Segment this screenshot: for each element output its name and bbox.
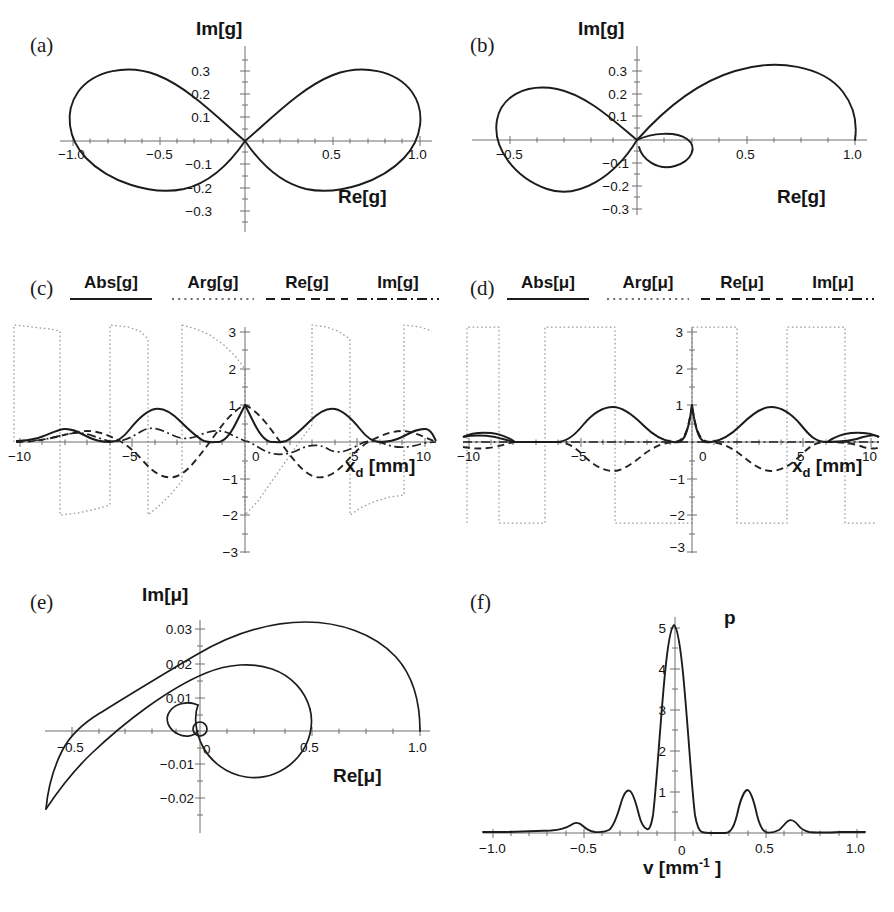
panel-c-x-axis-title: xd [mm] <box>345 455 415 480</box>
panel-d-legend-arg: Arg[μ] <box>605 273 691 296</box>
panel-f-x-axis-tail: ] <box>710 857 722 878</box>
panel-d-legend-im: Im[μ] <box>790 273 876 296</box>
panel-f-curve-spectrum <box>483 625 865 833</box>
panel-e: (e) Im[μ] Re[μ] <box>0 565 447 912</box>
panel-d-xtick-4: 10 <box>862 449 877 464</box>
panel-d-legend-re-label: Re[μ] <box>699 273 785 293</box>
panel-f: (f) p v [mm-1 ] <box>447 565 894 912</box>
panel-d-ytick-4: −2 <box>670 508 685 523</box>
panel-e-label: (e) <box>30 590 53 615</box>
panel-d-ytick-1: 2 <box>675 362 683 377</box>
panel-b-ytick-2: 0.1 <box>608 109 627 124</box>
panel-b-xtick-2: 1.0 <box>843 147 862 162</box>
panel-b-ytick-5: −0.3 <box>602 202 629 217</box>
panel-a-xtick-1: −0.5 <box>146 147 173 162</box>
panel-f-xtick-0: −1.0 <box>479 841 506 856</box>
panel-d-x-axis-title: xd [mm] <box>792 455 862 480</box>
panel-a: (a) Im[g] Re[g] <box>0 0 447 260</box>
panel-b-ytick-4: −0.2 <box>602 179 629 194</box>
panel-c-xtick-1: −5 <box>122 449 137 464</box>
panel-f-x-axis-unit: [mm <box>654 857 699 878</box>
panel-d-ytick-0: 3 <box>675 325 683 340</box>
panel-f-label: (f) <box>470 590 491 615</box>
panel-d: (d) Abs[μ] Arg[μ] Re[μ] Im[μ] x <box>447 265 894 565</box>
panel-d-curve-abs <box>463 405 879 442</box>
panel-d-legend-arg-label: Arg[μ] <box>605 273 691 293</box>
panel-e-xtick-2: 0.5 <box>300 740 319 755</box>
panel-d-legend-re: Re[μ] <box>699 273 785 296</box>
panel-c-label: (c) <box>30 276 53 301</box>
panel-f-x-axis-sup: -1 <box>699 856 710 870</box>
panel-e-ytick-0: 0.03 <box>166 622 192 637</box>
panel-d-ytick-3: −1 <box>670 472 685 487</box>
panel-c-legend-im: Im[g] <box>355 273 441 296</box>
panel-f-y-axis-title: p <box>724 607 736 629</box>
panel-f-xtick-1: −0.5 <box>570 841 597 856</box>
panel-e-x-axis-title: Re[μ] <box>333 765 382 787</box>
figure-multipanel: (a) Im[g] Re[g] <box>0 0 894 912</box>
panel-a-ytick-5: −0.3 <box>185 204 212 219</box>
panel-c-ytick-1: 2 <box>228 362 236 377</box>
panel-a-ytick-1: 0.2 <box>191 87 210 102</box>
panel-a-label: (a) <box>30 33 53 58</box>
panel-e-ytick-4: −0.02 <box>160 791 194 806</box>
panel-a-xtick-0: −1.0 <box>58 147 85 162</box>
panel-c-legend-re: Re[g] <box>264 273 350 296</box>
panel-a-xtick-2: 0.5 <box>322 147 341 162</box>
panel-c-legend-re-label: Re[g] <box>264 273 350 293</box>
panel-e-y-axis-title: Im[μ] <box>142 584 188 606</box>
panel-c-legend-abs: Abs[g] <box>68 273 154 296</box>
panel-d-plot: −10 −5 0 5 10 3 2 1 −1 −2 −3 <box>447 265 894 565</box>
panel-c-legend-abs-label: Abs[g] <box>68 273 154 293</box>
panel-c-legend-im-label: Im[g] <box>355 273 441 293</box>
panel-c-x-axis-base: x <box>345 455 356 476</box>
panel-e-plot: −0.5 0 0.5 1.0 0.03 0.02 0.01 −0.01 −0.0… <box>0 565 447 912</box>
panel-f-x-axis-title: v [mm-1 ] <box>643 856 721 879</box>
panel-c-ytick-0: 3 <box>228 325 236 340</box>
panel-e-xtick-3: 1.0 <box>408 740 427 755</box>
panel-b-x-axis-title: Re[g] <box>777 186 826 208</box>
panel-c-plot: −10 −5 0 5 10 3 2 1 −1 −2 −3 <box>0 265 447 565</box>
panel-c-x-axis-unit: [mm] <box>364 455 416 476</box>
panel-e-ytick-3: −0.01 <box>160 757 194 772</box>
panel-c-ytick-3: −1 <box>223 472 238 487</box>
panel-d-legend-im-label: Im[μ] <box>790 273 876 293</box>
panel-c-xtick-0: −10 <box>8 449 31 464</box>
panel-a-y-axis-title: Im[g] <box>196 18 242 40</box>
panel-b-y-axis-title: Im[g] <box>578 18 624 40</box>
panel-b: (b) Im[g] Re[g] <box>447 0 894 260</box>
panel-c-x-axis-sub: d <box>356 465 364 480</box>
panel-b-ytick-1: 0.2 <box>608 87 627 102</box>
panel-c-ytick-4: −2 <box>223 508 238 523</box>
panel-b-ytick-0: 0.3 <box>608 64 627 79</box>
panel-c-xtick-2: 0 <box>252 449 260 464</box>
panel-d-xtick-0: −10 <box>457 449 480 464</box>
panel-b-xtick-1: 0.5 <box>736 147 755 162</box>
panel-f-xtick-4: 1.0 <box>846 841 865 856</box>
panel-b-xtick-0: −0.5 <box>496 147 523 162</box>
panel-c-legend-arg: Arg[g] <box>170 273 256 296</box>
panel-d-x-axis-unit: [mm] <box>811 455 863 476</box>
panel-d-xtick-2: 0 <box>699 449 707 464</box>
panel-e-curve-inner <box>196 705 312 778</box>
panel-a-x-axis-title: Re[g] <box>338 186 387 208</box>
panel-e-curve-cusp <box>46 665 310 809</box>
panel-a-ytick-2: 0.1 <box>191 110 210 125</box>
panel-d-x-axis-sub: d <box>803 465 811 480</box>
panel-a-ytick-3: −0.1 <box>185 157 212 172</box>
panel-d-x-axis-base: x <box>792 455 803 476</box>
panel-c: (c) Abs[g] Arg[g] Re[g] Im[g] x <box>0 265 447 565</box>
panel-d-ytick-5: −3 <box>670 540 685 555</box>
panel-d-label: (d) <box>470 276 495 301</box>
panel-c-legend-arg-label: Arg[g] <box>170 273 256 293</box>
panel-d-legend-abs: Abs[μ] <box>505 273 591 296</box>
panel-d-legend-abs-label: Abs[μ] <box>505 273 591 293</box>
panel-b-plot: −0.5 0.5 1.0 0.3 0.2 0.1 −0.1 −0.2 −0.3 <box>447 0 894 260</box>
panel-f-xtick-3: 0.5 <box>755 841 774 856</box>
panel-a-ytick-0: 0.3 <box>191 64 210 79</box>
panel-f-x-axis-base: v <box>643 857 654 878</box>
panel-c-curve-abs <box>16 405 436 442</box>
panel-c-ytick-5: −3 <box>223 545 238 560</box>
panel-f-ytick-4: 5 <box>658 621 666 636</box>
panel-f-ytick-0: 1 <box>658 785 666 800</box>
